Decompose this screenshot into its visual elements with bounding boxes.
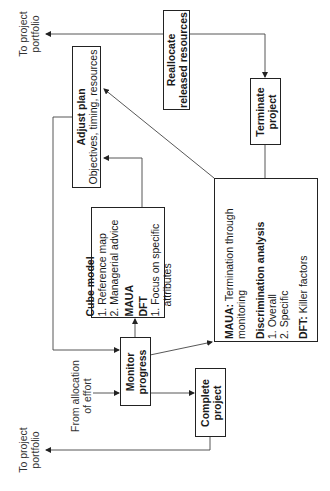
reallocate-line1: Reallocate [165,10,177,110]
from-allocation-label: From allocation of effort [66,357,96,435]
cube-dft-item-line1: 1. Focus on specific [149,209,161,316]
termination-dft-text: Killer factors [297,256,309,317]
termination-analysis-box: MAUA: Termination through monitoring Dis… [214,178,318,342]
complete-line1: Complete [199,368,211,437]
adjust-plan-title: Adjust plan [75,46,87,188]
monitor-progress-box: Monitor progress [120,337,151,406]
cube-model-title: Cube model [84,209,96,316]
termination-maua-label: MAUA: [223,304,235,339]
discrimination-item-1: 1. Overall [266,181,278,339]
termination-dft-label: DFT: [297,316,309,339]
adjust-plan-subtitle: Objectives, timing, resources [87,46,99,188]
adjust-plan-box: Adjust plan Objectives, timing, resource… [72,46,101,188]
discrimination-item-2: 2. Specific [278,181,290,339]
terminate-project-box: Terminate project [250,78,281,145]
cube-dft-label: DFT [137,209,149,316]
complete-project-box: Complete project [195,368,226,437]
to-project-portfolio-bottom-label: To project portfolio [14,418,44,482]
from-allocation-line1: From allocation [69,357,81,435]
portfolio-bottom-line2: portfolio [29,418,41,482]
cube-model-item-1: 1. Reference map [96,209,108,316]
monitor-line1: Monitor [124,337,136,406]
cube-model-item-2: 2. Managerial advice [108,209,120,316]
cube-maua-label: MAUA [123,209,135,316]
portfolio-top-line1: To project [17,2,29,66]
reallocate-line2: released resources [177,10,189,110]
discrimination-analysis-title: Discrimination analysis [254,181,266,339]
flow-diagram: Adjust plan Objectives, timing, resource… [0,0,330,491]
termination-maua-text-line2: monitoring [235,181,247,339]
from-allocation-line2: of effort [81,357,93,435]
termination-maua-text: Termination through [223,208,235,304]
portfolio-top-line2: portfolio [29,2,41,66]
cube-model-box: Cube model 1. Reference map 2. Manageria… [91,207,165,318]
terminate-line1: Terminate [254,78,266,145]
monitor-line2: progress [136,337,148,406]
portfolio-bottom-line1: To project [17,418,29,482]
reallocate-box: Reallocate released resources [163,10,190,110]
terminate-line2: project [266,78,278,145]
complete-line2: project [211,368,223,437]
cube-dft-item-line2: attributes [161,209,173,316]
to-project-portfolio-top-label: To project portfolio [14,2,44,66]
